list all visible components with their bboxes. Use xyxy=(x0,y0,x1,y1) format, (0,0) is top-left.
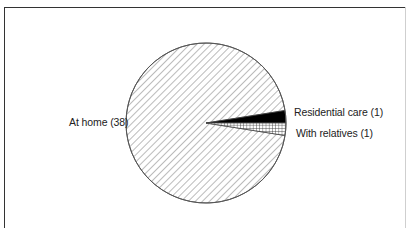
label-at-home: At home (38) xyxy=(69,116,129,128)
label-residential-care: Residential care (1) xyxy=(294,106,383,118)
label-with-relatives: With relatives (1) xyxy=(296,127,373,139)
